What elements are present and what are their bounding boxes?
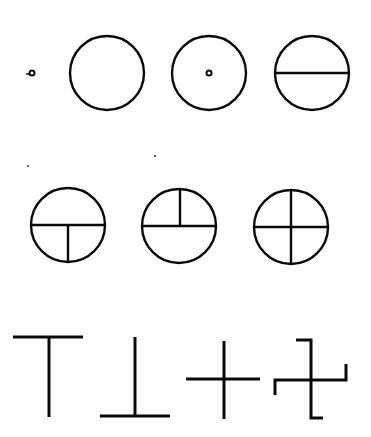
row-1 [26, 36, 349, 110]
circle-with-cross-icon [254, 190, 328, 264]
circle-horizontal-upper-vertical-icon [142, 189, 216, 263]
speck [154, 155, 156, 157]
circle-with-horizontal-line-icon [275, 36, 349, 110]
row-2 [27, 155, 328, 264]
row-3 [13, 337, 346, 419]
t-shape-icon [13, 337, 83, 417]
empty-circle-icon [70, 36, 144, 110]
symbol-diagram [0, 0, 371, 437]
speck [27, 165, 29, 167]
small-dot-icon [30, 71, 35, 76]
inverted-t-shape-icon [100, 337, 170, 416]
hooked-cross-icon [275, 340, 346, 418]
circle-horizontal-lower-vertical-icon [31, 188, 105, 262]
plus-cross-icon [186, 341, 260, 419]
circle-with-center-dot-icon [172, 36, 246, 110]
